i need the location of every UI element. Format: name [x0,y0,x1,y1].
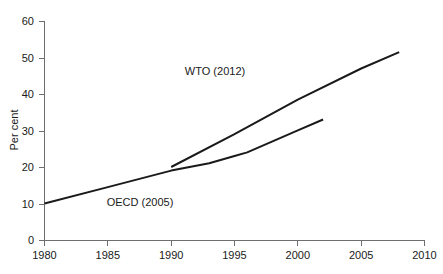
x-tick-label-2010: 2010 [412,249,436,261]
y-tick-label-30: 30 [22,125,34,137]
x-tick-label-1980: 1980 [32,249,56,261]
x-tick-label-2000: 2000 [286,249,310,261]
y-tick-label-40: 40 [22,88,34,100]
chart-background [0,0,443,274]
y-tick-label-0: 0 [28,234,34,246]
y-tick-label-50: 50 [22,52,34,64]
x-tick-label-1990: 1990 [159,249,183,261]
y-tick-label-20: 20 [22,161,34,173]
x-tick-label-1985: 1985 [96,249,120,261]
x-tick-label-2005: 2005 [349,249,373,261]
line-chart: 0 10 20 30 40 50 60 1980 1985 1990 1995 … [0,0,443,274]
x-tick-label-1995: 1995 [222,249,246,261]
y-axis-title: Per cent [8,110,20,151]
y-tick-label-60: 60 [22,15,34,27]
chart-container: 0 10 20 30 40 50 60 1980 1985 1990 1995 … [0,0,443,274]
y-tick-label-10: 10 [22,198,34,210]
series-annotation-oecd: OECD (2005) [107,196,174,208]
series-annotation-wto: WTO (2012) [185,65,245,77]
